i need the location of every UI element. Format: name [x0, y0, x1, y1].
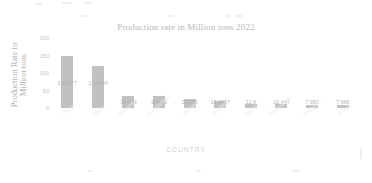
x-tick-slot: India — [83, 110, 114, 150]
bar-slot: 7.992 — [297, 38, 328, 108]
bar-slot: 120.444 — [83, 38, 114, 108]
scan-artifact — [35, 3, 42, 5]
bar-slot: 12.6 — [236, 38, 267, 108]
x-tick-slot: Indonesia — [113, 110, 144, 150]
x-tick-slot: China — [52, 110, 83, 150]
x-tick-slot: Vietnam — [174, 110, 205, 150]
chart-title: Production rate in Million tons 2022 — [0, 22, 372, 32]
scan-artifact — [84, 2, 92, 4]
scan-artifact — [292, 170, 300, 172]
bar-slot: 26.731 — [174, 38, 205, 108]
x-tick-slot: Pakistan — [297, 110, 328, 150]
scan-artifact — [62, 2, 71, 4]
chart-page: Production rate in Million tons 2022 Pro… — [0, 0, 372, 183]
bar-chart: Production rate in Million tons 2022 Pro… — [0, 18, 372, 168]
x-tick-slot: Burma — [236, 110, 267, 150]
bar-slot: 19.4617 — [205, 38, 236, 108]
scan-artifact — [236, 15, 243, 17]
x-tick-slot: Philippines — [266, 110, 297, 150]
y-axis-tick-label: 0 — [46, 105, 49, 111]
y-axis-tick-label: 200 — [40, 35, 49, 41]
bar-series: 148.277120.44434.45634.47226.73119.46171… — [52, 38, 358, 108]
x-axis-ticks: ChinaIndiaIndonesiaBangladeshVietnamThai… — [52, 110, 358, 150]
x-tick-slot: Thailand — [205, 110, 236, 150]
x-axis-title: COUNTRY — [0, 146, 372, 153]
x-tick-slot: Brazil — [327, 110, 358, 150]
x-tick-slot: Bangladesh — [144, 110, 175, 150]
scan-artifact — [88, 170, 93, 172]
y-axis-title: Production Rate in Million tons — [10, 30, 28, 120]
scan-artifact — [225, 15, 230, 17]
bar-slot: 148.277 — [52, 38, 83, 108]
y-axis-tick-label: 50 — [43, 88, 49, 94]
plot-area: 050100150200 148.277120.44434.45634.4722… — [52, 38, 358, 108]
bar-slot: 7.666 — [327, 38, 358, 108]
scan-artifact — [196, 170, 201, 172]
y-axis-tick-label: 150 — [40, 53, 49, 59]
bar[interactable] — [92, 66, 104, 108]
scan-artifact — [168, 15, 174, 17]
bar[interactable] — [61, 56, 73, 108]
scan-artifact — [81, 15, 87, 17]
bar-slot: 34.456 — [113, 38, 144, 108]
y-axis-tick-label: 100 — [40, 70, 49, 76]
